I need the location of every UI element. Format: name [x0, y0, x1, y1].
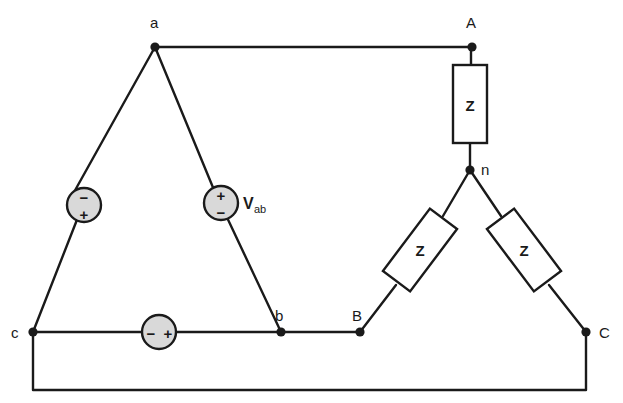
node-dot-n — [465, 165, 474, 174]
circuit-schematic-svg: Z Z Z − + + − — [0, 0, 623, 403]
wire-z-bn-to-n — [443, 170, 470, 216]
node-label-b: b — [275, 307, 283, 324]
source-bc-left-polarity: − — [147, 325, 156, 342]
wire-a-to-source-ca — [76, 47, 156, 190]
node-dot-a — [150, 42, 159, 51]
wire-a-to-source-ab — [155, 47, 213, 188]
node-label-a: a — [150, 14, 159, 31]
node-dot-c — [28, 327, 37, 336]
impedance-b-n-label: Z — [415, 242, 424, 259]
node-label-A: A — [466, 14, 476, 31]
source-ab: + − — [204, 186, 238, 221]
node-dot-A — [467, 42, 476, 51]
node-dot-b — [276, 327, 285, 336]
node-label-group: a b c A B C n — [11, 14, 610, 341]
impedance-c-n-label: Z — [519, 242, 528, 259]
impedance-a-n-label: Z — [465, 97, 474, 114]
node-dot-B — [355, 327, 364, 336]
voltage-label-vab-subscript: ab — [254, 203, 266, 215]
node-dot-C — [581, 327, 590, 336]
wire-source-ab-to-b — [228, 219, 282, 333]
voltage-label-vab-main: V — [243, 195, 254, 212]
source-group: − + + − − + — [67, 186, 238, 349]
wire-B-to-z-bn — [360, 285, 396, 332]
source-ca: − + — [67, 188, 101, 223]
wire-C-to-z-cn — [549, 285, 586, 332]
source-ab-top-polarity: + — [217, 187, 226, 204]
wire-source-ca-to-c — [33, 221, 77, 332]
source-ca-top-polarity: − — [80, 189, 89, 206]
node-label-C: C — [599, 324, 610, 341]
voltage-label-vab: V ab — [243, 195, 266, 215]
source-ab-bottom-polarity: − — [217, 204, 226, 221]
source-bc-right-polarity: + — [164, 325, 173, 342]
impedance-a-n: Z — [453, 65, 487, 143]
node-label-B: B — [352, 307, 362, 324]
source-ca-bottom-polarity: + — [80, 206, 89, 223]
impedance-group: Z Z Z — [383, 65, 561, 291]
node-label-c: c — [11, 324, 19, 341]
wire-c-to-C-bottom-rail — [33, 332, 586, 390]
circuit-diagram: Z Z Z − + + − — [0, 0, 623, 403]
source-bc: − + — [142, 315, 176, 349]
node-dot-group — [28, 42, 590, 336]
node-label-n: n — [481, 161, 489, 178]
